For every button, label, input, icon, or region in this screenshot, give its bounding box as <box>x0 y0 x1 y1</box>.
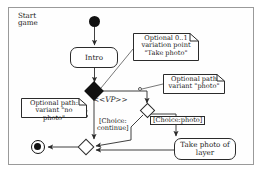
guard-choice-photo: [Choice:photo] <box>150 116 205 125</box>
note-variation-point-text: Optional 0..1 variation point "Take phot… <box>136 35 196 57</box>
note-anchor-dot-photo <box>138 87 142 91</box>
note-optional-path-photo: Optional path variant "photo" <box>163 74 225 94</box>
activity-take-photo-of-layer[interactable]: Take photo of layer <box>174 138 236 160</box>
guard-choice-continue: [Choice: continue] <box>97 118 129 133</box>
variation-point-label: <<VP>> <box>93 96 127 104</box>
activity-intro[interactable]: Intro <box>70 47 118 68</box>
note-variation-point: Optional 0..1 variation point "Take phot… <box>133 33 199 61</box>
final-node <box>31 140 45 154</box>
initial-node <box>89 16 100 27</box>
page-title: Start game <box>18 12 38 27</box>
activity-diagram-canvas: Start game Intro <<VP>> Take photo of la… <box>0 0 263 175</box>
note-optional-path-no-photo-text: Optional path: variant "no photo" <box>24 100 84 122</box>
note-optional-path-photo-text: Optional path variant "photo" <box>166 76 222 91</box>
note-optional-path-no-photo: Optional path: variant "no photo" <box>21 98 87 118</box>
